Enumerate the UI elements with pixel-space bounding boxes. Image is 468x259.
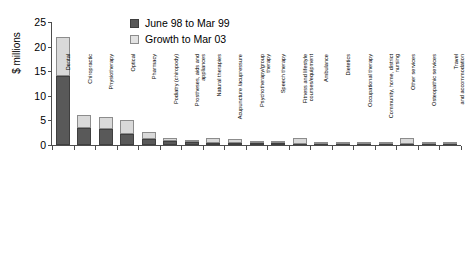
x-tick-mark — [332, 146, 333, 150]
x-tick-label: Pharmacy — [151, 54, 157, 152]
x-tick-mark — [74, 146, 75, 150]
x-tick-mark — [138, 146, 139, 150]
x-tick-mark — [375, 146, 376, 150]
x-tick-mark — [353, 146, 354, 150]
x-tick-label: Osteopathic services — [431, 54, 437, 152]
x-tick-mark — [246, 146, 247, 150]
y-tick-label: 10 — [22, 91, 46, 101]
x-tick-label: Prostheses, aids and appliances — [194, 54, 206, 152]
x-tick-label: Speech therapy — [280, 54, 286, 152]
x-tick-mark — [160, 146, 161, 150]
y-tick-label: 20 — [22, 42, 46, 52]
x-tick-label: Dietetics — [345, 54, 351, 152]
x-tick-label: Natural therapies — [216, 54, 222, 152]
x-tick-label: Community, home, district nursing — [388, 54, 400, 152]
chart-legend: June 98 to Mar 99 Growth to Mar 03 — [130, 17, 230, 49]
x-tick-label: Podiatry (chiropody) — [173, 54, 179, 152]
y-tick-label: 25 — [22, 17, 46, 27]
x-tick-mark — [289, 146, 290, 150]
x-tick-label: Acupuncture /acupressure — [237, 54, 243, 152]
x-tick-mark — [117, 146, 118, 150]
x-tick-label: Travel and accommodation — [453, 54, 465, 152]
x-tick-label: Dental — [65, 54, 71, 152]
x-tick-mark — [181, 146, 182, 150]
x-tick-mark — [224, 146, 225, 150]
x-tick-mark — [95, 146, 96, 150]
legend-item-june-98-to-mar-99[interactable]: June 98 to Mar 99 — [130, 17, 230, 29]
legend-swatch-icon — [130, 19, 139, 28]
legend-item-growth-to-mar-03[interactable]: Growth to Mar 03 — [130, 33, 230, 45]
legend-swatch-icon — [130, 35, 139, 44]
x-tick-label: Physiotherapy — [108, 54, 114, 152]
x-tick-label: Chiropractic — [87, 54, 93, 152]
chart-canvas: $ millions 0510152025 DentalChiropractic… — [0, 0, 468, 259]
y-tick-label: 15 — [22, 66, 46, 76]
x-tick-mark — [52, 146, 53, 150]
legend-item-label: June 98 to Mar 99 — [145, 17, 230, 29]
x-tick-label: Occupational therapy — [367, 54, 373, 152]
x-tick-label: Other services — [410, 54, 416, 152]
y-tick-label: 0 — [22, 140, 46, 150]
x-tick-label: Psychotherapy/group therapy — [259, 54, 271, 152]
x-tick-mark — [418, 146, 419, 150]
legend-item-label: Growth to Mar 03 — [145, 33, 226, 45]
y-tick-label: 5 — [22, 115, 46, 125]
x-tick-mark — [439, 146, 440, 150]
x-tick-label: Optical — [130, 54, 136, 152]
x-tick-label: Fitness and lifestyle courses/equipment — [302, 54, 314, 152]
x-tick-label: Ambulance — [323, 54, 329, 152]
